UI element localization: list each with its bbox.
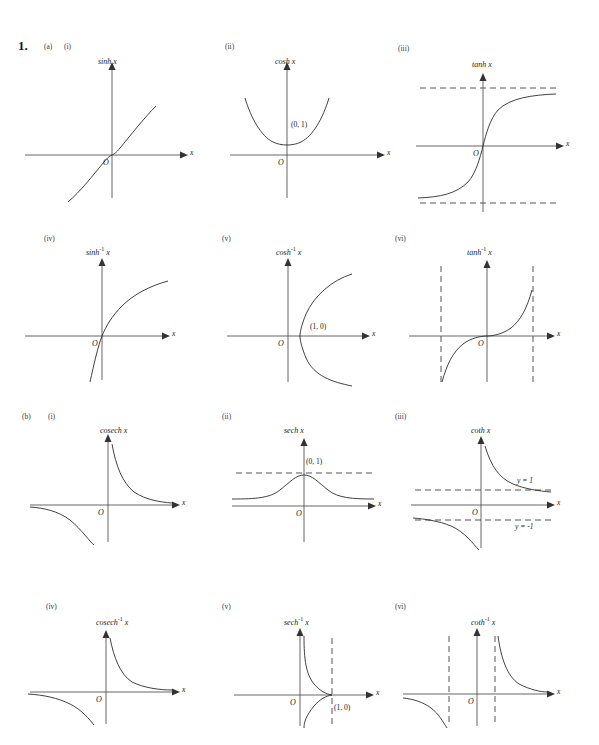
y-axis-arrow — [285, 258, 292, 266]
plot-area — [222, 600, 407, 728]
x-axis-arrow — [180, 152, 188, 159]
origin-label: O — [96, 695, 102, 704]
roman-label: (v) — [222, 234, 231, 243]
function-name: cosech — [96, 618, 118, 627]
y-axis-arrow — [480, 73, 487, 81]
y-axis-arrow — [99, 258, 106, 266]
graph-tanh: (iii) tanh x O x — [398, 46, 593, 221]
roman-label: (i) — [64, 42, 71, 51]
graph-cosh: (ii) cosh x O (0, 1) x — [225, 50, 405, 210]
x-axis-label: x — [557, 329, 560, 338]
graph-arccosh: (v) cosh-1 x O (1, 0) x — [222, 236, 402, 396]
function-variable: x — [106, 248, 110, 257]
x-axis-arrow — [368, 503, 376, 510]
function-title: sinh-1 x — [86, 246, 110, 257]
function-title: coth-1 x — [471, 616, 495, 627]
graph-coth: (iii) coth x O y = 1 y = -1 x — [395, 410, 590, 565]
roman-label: (iv) — [44, 234, 55, 243]
function-variable: x — [487, 426, 491, 435]
function-name: cosh — [275, 57, 290, 66]
y-axis-arrow — [301, 438, 308, 446]
graph-arcsinh: (iv) sinh-1 x O x — [20, 236, 200, 396]
roman-label: (iii) — [398, 44, 409, 53]
function-name: coth — [471, 618, 485, 627]
roman-label: (i) — [48, 412, 55, 421]
y-axis-arrow — [297, 628, 304, 636]
x-axis-label: x — [378, 499, 381, 508]
curve-arccosech-negative — [28, 694, 94, 725]
origin-label: O — [278, 339, 284, 348]
plot-area — [222, 410, 402, 545]
function-name: sech — [284, 618, 298, 627]
x-axis-arrow — [556, 143, 564, 150]
origin-label: O — [278, 158, 284, 167]
x-axis-label: x — [190, 148, 193, 157]
origin-label: O — [92, 339, 98, 348]
y-axis-arrow — [478, 436, 485, 444]
point-label: (1, 0) — [334, 703, 350, 712]
roman-label: (ii) — [222, 412, 231, 421]
plot-area — [222, 236, 402, 386]
function-title: sinh x — [98, 55, 117, 66]
function-variable: x — [124, 426, 128, 435]
curve-cosech-positive — [112, 444, 172, 503]
origin-label: O — [103, 158, 109, 167]
roman-label: (iii) — [395, 412, 406, 421]
function-variable: x — [292, 57, 296, 66]
curve-arccoth-right — [498, 636, 547, 692]
plot-area — [395, 236, 585, 388]
function-name: sinh — [86, 248, 99, 257]
function-variable: x — [488, 60, 492, 69]
curve-arcsech-upper — [304, 636, 332, 695]
function-title: cosech x — [100, 424, 127, 435]
x-axis-arrow — [547, 333, 555, 340]
function-variable: x — [488, 248, 492, 257]
plot-area — [395, 410, 590, 550]
x-axis-arrow — [547, 502, 555, 509]
x-axis-arrow — [172, 502, 180, 509]
function-title: tanh-1 x — [467, 246, 492, 257]
function-title: tanh x — [472, 58, 492, 69]
function-exponent: -1 — [485, 616, 490, 622]
plot-area — [225, 50, 405, 205]
y-axis-arrow — [484, 260, 491, 268]
y-axis-arrow — [474, 628, 481, 636]
graph-arcsech: (v) sech-1 x O (1, 0) x — [222, 600, 407, 745]
roman-label: (iv) — [46, 602, 57, 611]
function-name: coth — [471, 426, 485, 435]
roman-label: (vi) — [395, 602, 406, 611]
function-variable: x — [492, 618, 496, 627]
x-axis-arrow — [162, 333, 170, 340]
origin-label: O — [478, 339, 484, 348]
graph-cosech: (i) cosech x O x — [20, 410, 210, 560]
function-name: cosech — [100, 426, 122, 435]
y-axis-arrow — [105, 434, 112, 442]
curve-arccosech-positive — [110, 638, 172, 690]
origin-label: O — [468, 697, 474, 706]
graph-arccoth: (vi) coth-1 x O x — [395, 600, 590, 745]
function-exponent: -1 — [118, 616, 123, 622]
function-exponent: -1 — [298, 616, 303, 622]
point-label: (0, 1) — [306, 457, 322, 466]
point-label: (0, 1) — [291, 120, 307, 129]
graph-arctanh: (vi) tanh-1 x O x — [395, 236, 585, 396]
x-axis-arrow — [377, 152, 385, 159]
function-exponent: -1 — [291, 246, 296, 252]
origin-label: O — [98, 508, 104, 517]
function-exponent: -1 — [99, 246, 104, 252]
x-axis-arrow — [362, 333, 370, 340]
function-name: cosh — [276, 248, 291, 257]
x-axis-arrow — [366, 692, 374, 699]
x-axis-label: x — [557, 498, 560, 507]
x-axis-label: x — [566, 139, 569, 148]
plot-area — [20, 236, 200, 386]
x-axis-label: x — [557, 687, 560, 696]
x-axis-label: x — [182, 498, 185, 507]
function-title: cosech-1 x — [96, 616, 128, 627]
curve-coth-positive — [485, 446, 551, 492]
function-title: cosh-1 x — [276, 246, 301, 257]
origin-label: O — [296, 509, 302, 518]
asymptote-label-upper: y = 1 — [517, 476, 533, 485]
function-name: sech — [284, 426, 298, 435]
plot-area — [398, 46, 593, 218]
